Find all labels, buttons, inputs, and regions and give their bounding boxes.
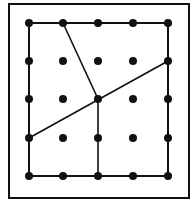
peg-dot (25, 172, 33, 180)
peg-dot (25, 19, 33, 27)
geoboard-diagram (0, 0, 191, 213)
peg-dot (129, 57, 137, 65)
peg-dot (94, 19, 102, 27)
peg-dot (129, 19, 137, 27)
peg-dot (94, 95, 102, 103)
peg-dot (164, 95, 172, 103)
peg-dot (129, 172, 137, 180)
peg-dot (25, 134, 33, 142)
peg-dot (164, 134, 172, 142)
peg-dot (59, 134, 67, 142)
peg-dot (25, 95, 33, 103)
peg-dot (129, 95, 137, 103)
peg-dot (25, 57, 33, 65)
peg-dot (94, 134, 102, 142)
partition-line (63, 23, 98, 99)
peg-dot (59, 95, 67, 103)
peg-dot (164, 172, 172, 180)
peg-dot (59, 172, 67, 180)
peg-dot (94, 57, 102, 65)
peg-dot (164, 19, 172, 27)
peg-dot (129, 134, 137, 142)
peg-dot (94, 172, 102, 180)
peg-dot (59, 19, 67, 27)
peg-dot (59, 57, 67, 65)
peg-dot (164, 57, 172, 65)
